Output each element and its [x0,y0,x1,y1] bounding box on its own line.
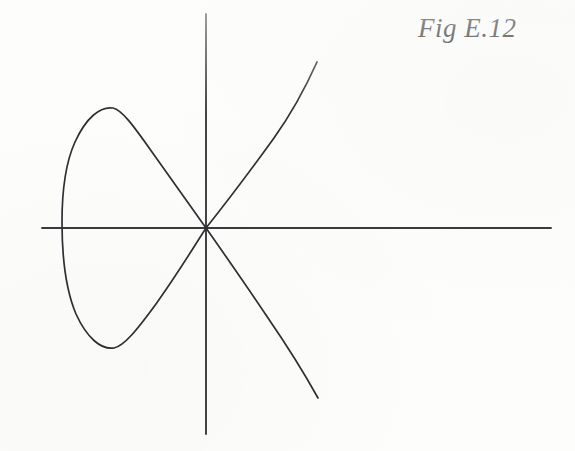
curve-upper-right-branch [206,62,317,228]
curve-lower-right-branch [206,228,318,398]
figure-caption: Fig E.12 [418,13,517,44]
nodal-cubic-figure [0,0,575,451]
figure-container: Fig E.12 [0,0,575,451]
